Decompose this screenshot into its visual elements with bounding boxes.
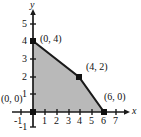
x-tick-label-1: 1 [42, 116, 47, 126]
y-tick-label-4: 4 [22, 36, 27, 46]
x-axis-label: x [132, 106, 136, 116]
point-label-6-0: (6, 0) [104, 92, 126, 102]
point-label-4-2: (4, 2) [86, 62, 108, 72]
x-axis-arrow-icon [124, 109, 130, 115]
x-tick-label-minus-1: -1 [14, 116, 22, 126]
graph-figure: y x 5 4 3 2 1 -1 -1 1 2 3 4 5 6 7 (0, 0)… [0, 0, 141, 137]
shaded-region [33, 41, 104, 112]
x-tick-label-3: 3 [66, 116, 71, 126]
point-label-0-0: (0, 0) [1, 94, 23, 104]
x-tick-label-7: 7 [113, 116, 118, 126]
point-label-0-4: (0, 4) [40, 34, 62, 44]
y-axis-label: y [30, 0, 34, 10]
x-tick-label-2: 2 [54, 116, 59, 126]
y-tick-label-5: 5 [22, 19, 27, 29]
y-tick-label-3: 3 [22, 54, 27, 64]
x-tick-label-6: 6 [101, 116, 106, 126]
x-tick-label-5: 5 [89, 116, 94, 126]
vertex-dot-0-4 [30, 38, 36, 44]
x-tick-label-4: 4 [77, 116, 82, 126]
vertex-dot-4-2 [76, 74, 82, 80]
vertex-dot-origin [30, 109, 36, 115]
y-tick-label-2: 2 [22, 72, 27, 82]
